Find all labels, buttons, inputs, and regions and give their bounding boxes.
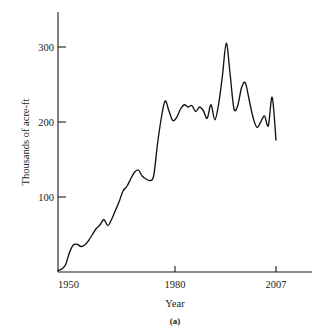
y-tick-label-300: 300 — [38, 42, 54, 53]
x-tick-label-1950: 1950 — [58, 279, 79, 290]
x-tick-label-2007: 2007 — [266, 279, 287, 290]
figure-panel: 300 200 100 1950 1980 2007 Year Thousand… — [0, 0, 328, 333]
y-tick-label-100: 100 — [38, 192, 54, 203]
figure-caption: (a) — [170, 316, 181, 326]
y-tick-label-200: 200 — [38, 117, 54, 128]
x-tick-label-1980: 1980 — [165, 279, 186, 290]
y-axis-title: Thousands of acre-ft — [20, 98, 31, 185]
data-series-line — [58, 43, 276, 270]
x-axis-title: Year — [165, 298, 185, 309]
line-chart: 300 200 100 1950 1980 2007 Year Thousand… — [0, 0, 328, 333]
